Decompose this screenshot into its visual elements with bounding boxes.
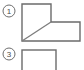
step-marker-3: 3 xyxy=(3,48,15,60)
geometric-figure-canvas: 1 3 xyxy=(0,0,84,70)
step-marker-3-label: 3 xyxy=(7,50,12,59)
step-marker-1: 1 xyxy=(3,5,15,17)
step-marker-1-label: 1 xyxy=(7,7,12,16)
partial-rectangle xyxy=(22,50,56,70)
figure-container: 1 3 xyxy=(0,0,84,70)
